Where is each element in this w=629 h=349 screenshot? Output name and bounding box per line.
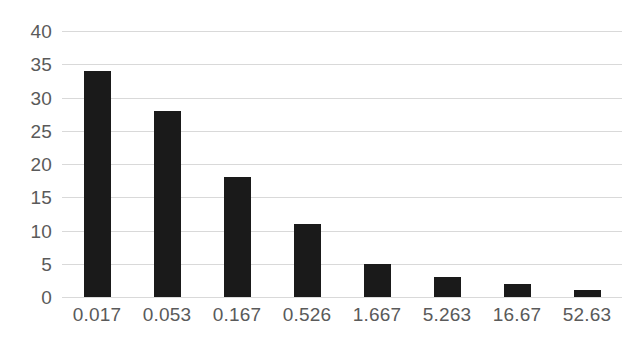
x-axis-tick-label: 0.167 — [202, 305, 272, 324]
bar-slot — [342, 31, 412, 297]
y-axis-tick-label: 30 — [30, 88, 52, 107]
bar-slot — [132, 31, 202, 297]
y-axis-tick-label: 5 — [41, 254, 52, 273]
bar[interactable] — [84, 71, 111, 297]
bar-slot — [202, 31, 272, 297]
bar-slot — [552, 31, 622, 297]
bar[interactable] — [154, 111, 181, 297]
bar[interactable] — [504, 284, 531, 297]
bar-slot — [482, 31, 552, 297]
y-axis-tick-label: 0 — [41, 288, 52, 307]
bar[interactable] — [364, 264, 391, 297]
axis-baseline — [62, 297, 622, 298]
bar[interactable] — [574, 290, 601, 297]
y-axis-tick-label: 35 — [30, 55, 52, 74]
y-axis-tick-label: 40 — [30, 22, 52, 41]
y-axis-tick-label: 10 — [30, 221, 52, 240]
x-axis-tick-label: 16.67 — [482, 305, 552, 324]
y-axis-tick-label: 20 — [30, 155, 52, 174]
x-axis-tick-label: 1.667 — [342, 305, 412, 324]
bar[interactable] — [294, 224, 321, 297]
x-axis: 0.017 0.053 0.167 0.526 1.667 5.263 16.6… — [62, 305, 622, 324]
bar[interactable] — [434, 277, 461, 297]
bar-slot — [272, 31, 342, 297]
y-axis-tick-label: 25 — [30, 121, 52, 140]
bar-slot — [62, 31, 132, 297]
x-axis-tick-label: 0.526 — [272, 305, 342, 324]
bar-series — [62, 31, 622, 297]
y-axis-tick-label: 15 — [30, 188, 52, 207]
bar[interactable] — [224, 177, 251, 297]
x-axis-tick-label: 0.053 — [132, 305, 202, 324]
y-axis: 40 35 30 25 20 15 10 5 0 — [0, 31, 52, 297]
x-axis-tick-label: 5.263 — [412, 305, 482, 324]
x-axis-tick-label: 52.63 — [552, 305, 622, 324]
plot-area — [62, 31, 622, 297]
x-axis-tick-label: 0.017 — [62, 305, 132, 324]
bar-slot — [412, 31, 482, 297]
bar-chart: 40 35 30 25 20 15 10 5 0 — [0, 0, 629, 349]
